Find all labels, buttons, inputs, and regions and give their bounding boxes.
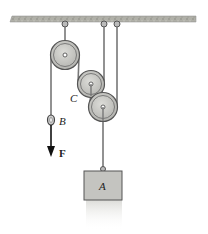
pulley-diagram: C B F A	[0, 0, 208, 234]
label-b: B	[59, 115, 66, 127]
force-arrow	[47, 125, 55, 157]
ring-b	[48, 115, 55, 125]
label-f: F	[59, 147, 66, 159]
pulley-top	[51, 41, 80, 70]
block-shadow	[86, 200, 122, 230]
label-a: A	[98, 180, 106, 192]
label-c: C	[70, 92, 78, 104]
